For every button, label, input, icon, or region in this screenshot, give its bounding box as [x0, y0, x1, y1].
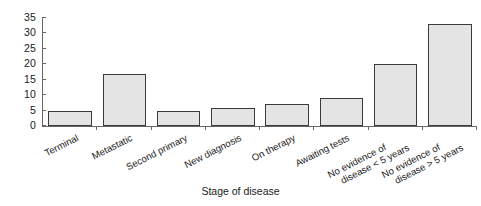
- bar: [374, 64, 417, 126]
- x-axis-category-label: Terminal: [43, 132, 80, 158]
- x-axis-tick-mark: [368, 126, 369, 130]
- bar-series: [43, 18, 476, 126]
- y-axis-tick-label: 10: [0, 88, 36, 100]
- x-axis-tick-mark: [476, 126, 477, 130]
- x-axis-tick-mark: [96, 126, 97, 130]
- x-axis-tick-mark: [422, 126, 423, 130]
- x-axis-tick-mark: [205, 126, 206, 130]
- bar: [211, 108, 254, 127]
- x-axis-tick-mark: [313, 126, 314, 130]
- bar: [320, 98, 363, 126]
- x-axis-category-label: No evidence ofdisease > 5 years: [380, 132, 465, 190]
- bar: [428, 24, 471, 126]
- y-axis-tick-label: 20: [0, 57, 36, 69]
- x-axis-title: Stage of disease: [0, 185, 481, 197]
- bar: [48, 111, 91, 126]
- bar-chart: 05101520253035 TerminalMetastaticSecond …: [0, 0, 481, 206]
- bar: [265, 104, 308, 126]
- y-axis-tick-label: 15: [0, 73, 36, 85]
- x-axis-tick-mark: [151, 126, 152, 130]
- x-axis-category-label: No evidence ofdisease < 5 years: [325, 132, 410, 190]
- x-axis-category-label: New diagnosis: [182, 132, 243, 170]
- y-axis-tick-label: 25: [0, 42, 36, 54]
- y-axis-tick-label: 30: [0, 26, 36, 38]
- y-axis-tick-label: 0: [0, 119, 36, 131]
- x-axis-category-label: Awaiting tests: [294, 132, 352, 169]
- x-axis-category-label: Second primary: [124, 132, 189, 172]
- bar: [103, 74, 146, 126]
- bar: [157, 111, 200, 126]
- x-axis-tick-mark: [259, 126, 260, 130]
- x-axis-category-label: Metastatic: [90, 132, 134, 162]
- y-axis-tick-label: 35: [0, 11, 36, 23]
- x-axis-category-label: On therapy: [250, 132, 297, 163]
- y-axis-tick-label: 5: [0, 104, 36, 116]
